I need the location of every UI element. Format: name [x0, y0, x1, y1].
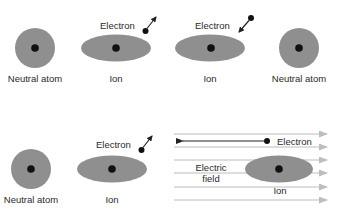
electron-label: Electron [195, 20, 230, 31]
ion-label: Ion [109, 73, 122, 84]
ion-label: Ion [273, 185, 286, 196]
ion-label: Ion [105, 194, 118, 205]
electron-arriving-top [239, 15, 254, 32]
neutral-atom-label: Neutral atom [272, 73, 326, 84]
electron-label: Electron [277, 136, 312, 147]
electron-label: Electron [100, 20, 135, 31]
ion-top-left [81, 35, 151, 62]
neutral-atom-top-right [279, 28, 319, 68]
ion-label: Ion [203, 73, 216, 84]
ion-top-right [175, 35, 245, 62]
neutral-atom-label: Neutral atom [4, 194, 58, 205]
neutral-atom-top-left [15, 28, 55, 68]
ion-bottom [77, 156, 147, 183]
neutral-atom-label: Neutral atom [8, 73, 62, 84]
electron-label: Electron [96, 139, 131, 150]
ionization-diagram: Neutral atom Ion Electron Ion Electron N… [0, 0, 346, 222]
field-ion [245, 156, 313, 183]
electric-field-label: Electric [195, 162, 226, 173]
field-electron [183, 138, 270, 144]
electron-leaving-bottom [139, 136, 153, 153]
neutral-atom-bottom [11, 149, 51, 189]
electric-field-label: field [202, 173, 219, 184]
electron-leaving-top [143, 17, 157, 34]
